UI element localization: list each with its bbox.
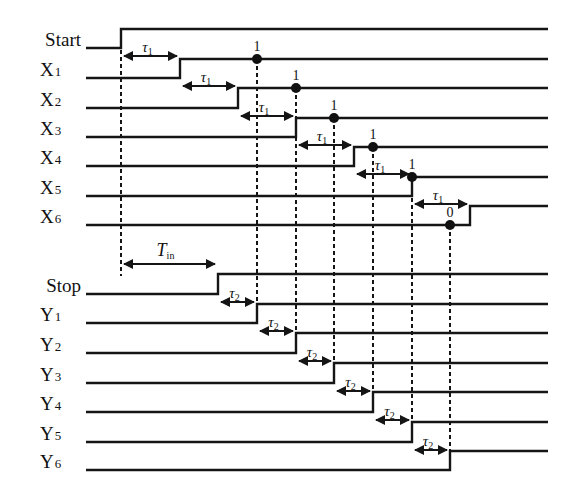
signal-label-x1: X1: [40, 59, 61, 80]
waveform-x1: [86, 59, 548, 78]
signal-label-y3: Y3: [40, 364, 61, 385]
waveform-y4: [86, 392, 548, 412]
delay-label: τ1: [375, 157, 385, 175]
sample-points: 111110: [252, 39, 455, 230]
waveform-y3: [86, 363, 548, 383]
signal-labels: StartX1X2X3X4X5X6StopY1Y2Y3Y4Y5Y6: [40, 29, 82, 472]
sample-dot-x2: [291, 83, 301, 93]
signal-label-y1: Y1: [40, 304, 61, 325]
signal-label-y4: Y4: [40, 393, 62, 414]
stop-group-waveforms: [86, 274, 548, 470]
signal-label-stop: Stop: [46, 275, 81, 296]
sample-value: 1: [331, 98, 338, 113]
delay-label: τ2: [423, 433, 433, 451]
sample-value: 1: [370, 127, 377, 142]
signal-label-x3: X3: [40, 118, 61, 139]
waveform-x4: [86, 147, 548, 166]
waveform-y5: [86, 422, 548, 442]
delay-label: τ2: [268, 314, 278, 332]
waveform-x5: [86, 177, 548, 196]
waveform-stop: [86, 274, 548, 294]
sample-dot-x5: [407, 172, 417, 182]
signal-label-x6: X6: [40, 206, 62, 227]
delay-label: τ1: [201, 69, 211, 87]
signal-label-y2: Y2: [40, 334, 61, 355]
sample-value: 0: [447, 205, 454, 220]
waveform-x6: [86, 206, 548, 225]
waveform-y6: [86, 451, 548, 470]
tin-label: Tin: [157, 240, 175, 261]
delay-label: τ2: [345, 374, 355, 392]
delay-label: τ1: [433, 187, 443, 205]
sample-value: 1: [409, 157, 416, 172]
sample-dot-x3: [329, 113, 339, 123]
start-group-waveforms: [86, 29, 548, 225]
delay-label: τ2: [229, 285, 239, 303]
signal-label-y5: Y5: [40, 423, 61, 444]
sample-dot-x4: [368, 142, 378, 152]
waveform-y1: [86, 304, 548, 323]
delay-label: τ2: [384, 403, 394, 421]
delay-label: τ1: [317, 128, 327, 146]
signal-label-x4: X4: [40, 147, 62, 168]
delay-label: τ2: [307, 344, 317, 362]
sample-value: 1: [254, 39, 261, 54]
waveform-start: [86, 29, 548, 48]
signal-label-y6: Y6: [40, 451, 62, 472]
signal-label-x2: X2: [40, 89, 61, 110]
signal-label-x5: X5: [40, 177, 61, 198]
timing-diagram: τ1τ1τ1τ1τ1τ1τ2τ2τ2τ2τ2τ2Tin 111110 Start…: [0, 0, 572, 494]
signal-label-start: Start: [45, 29, 82, 50]
delay-label: τ1: [259, 99, 269, 117]
waveform-y2: [86, 333, 548, 353]
sample-value: 1: [293, 68, 300, 83]
delay-label: τ1: [142, 39, 152, 57]
sample-dot-x1: [252, 54, 262, 64]
sample-dot-x6: [445, 220, 455, 230]
waveform-x2: [86, 88, 548, 108]
